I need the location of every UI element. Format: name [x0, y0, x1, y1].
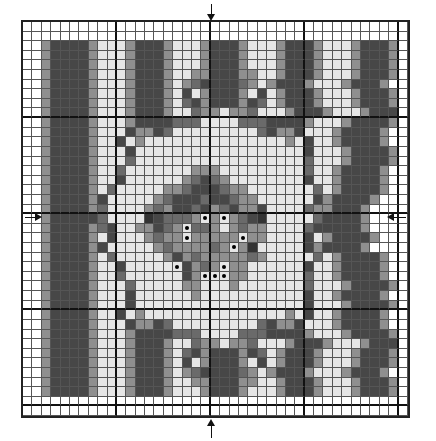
stitch-cell — [399, 195, 408, 205]
stitch-cell — [192, 397, 201, 407]
stitch-cell — [286, 176, 295, 186]
stitch-cell — [389, 51, 398, 61]
stitch-cell — [89, 89, 98, 99]
stitch-cell — [108, 118, 117, 128]
stitch-cell — [145, 80, 154, 90]
stitch-cell — [230, 137, 239, 147]
stitch-cell — [89, 310, 98, 320]
stitch-cell — [79, 406, 88, 416]
stitch-cell — [380, 349, 389, 359]
stitch-cell — [361, 176, 370, 186]
stitch-cell — [295, 137, 304, 147]
stitch-cell — [389, 147, 398, 157]
stitch-cell — [201, 262, 210, 272]
stitch-cell — [183, 214, 192, 224]
stitch-cell — [201, 80, 210, 90]
stitch-cell — [277, 157, 286, 167]
stitch-cell — [32, 262, 41, 272]
stitch-cell — [42, 397, 51, 407]
stitch-cell — [239, 22, 248, 32]
stitch-cell — [305, 320, 314, 330]
stitch-cell — [98, 224, 107, 234]
stitch-cell — [295, 166, 304, 176]
stitch-cell — [258, 205, 267, 215]
stitch-cell — [248, 70, 257, 80]
stitch-cell — [70, 291, 79, 301]
stitch-cell — [333, 185, 342, 195]
stitch-cell — [342, 320, 351, 330]
stitch-cell — [342, 89, 351, 99]
stitch-cell — [154, 80, 163, 90]
stitch-cell — [98, 32, 107, 42]
stitch-cell — [277, 272, 286, 282]
stitch-cell — [220, 301, 229, 311]
stitch-cell — [211, 118, 220, 128]
stitch-cell — [220, 128, 229, 138]
stitch-cell — [126, 89, 135, 99]
stitch-cell — [108, 99, 117, 109]
stitch-cell — [380, 128, 389, 138]
stitch-cell — [399, 349, 408, 359]
stitch-cell — [239, 118, 248, 128]
stitch-cell — [295, 406, 304, 416]
stitch-cell — [51, 253, 60, 263]
stitch-cell — [333, 99, 342, 109]
stitch-cell — [342, 22, 351, 32]
stitch-cell — [136, 128, 145, 138]
stitch-cell — [239, 41, 248, 51]
stitch-cell — [42, 51, 51, 61]
stitch-cell — [295, 291, 304, 301]
stitch-cell — [61, 310, 70, 320]
stitch-cell — [51, 176, 60, 186]
stitch-cell — [23, 243, 32, 253]
stitch-cell — [305, 157, 314, 167]
stitch-cell — [314, 406, 323, 416]
stitch-cell — [89, 205, 98, 215]
stitch-cell — [32, 80, 41, 90]
stitch-cell — [61, 358, 70, 368]
stitch-cell — [51, 310, 60, 320]
stitch-cell — [183, 387, 192, 397]
stitch-cell — [61, 185, 70, 195]
stitch-cell — [173, 22, 182, 32]
stitch-cell — [361, 378, 370, 388]
stitch-cell — [211, 108, 220, 118]
stitch-cell — [305, 60, 314, 70]
stitch-cell — [32, 137, 41, 147]
stitch-cell — [314, 32, 323, 42]
stitch-cell — [361, 99, 370, 109]
stitch-cell — [220, 349, 229, 359]
stitch-cell — [32, 118, 41, 128]
stitch-cell — [370, 80, 379, 90]
stitch-cell — [399, 406, 408, 416]
stitch-cell — [42, 253, 51, 263]
stitch-cell — [399, 89, 408, 99]
stitch-cell — [361, 281, 370, 291]
stitch-cell — [277, 301, 286, 311]
stitch-cell — [51, 378, 60, 388]
stitch-cell — [117, 89, 126, 99]
stitch-cell — [192, 185, 201, 195]
stitch-cell — [333, 60, 342, 70]
stitch-cell — [192, 205, 201, 215]
stitch-cell — [79, 176, 88, 186]
stitch-cell — [258, 339, 267, 349]
stitch-cell — [126, 330, 135, 340]
stitch-cell — [70, 147, 79, 157]
stitch-cell — [248, 137, 257, 147]
stitch-cell — [164, 262, 173, 272]
stitch-cell — [42, 233, 51, 243]
stitch-cell — [173, 387, 182, 397]
stitch-cell — [323, 166, 332, 176]
stitch-cell — [286, 349, 295, 359]
stitch-cell — [51, 99, 60, 109]
stitch-cell — [230, 320, 239, 330]
stitch-cell — [248, 397, 257, 407]
stitch-cell — [23, 166, 32, 176]
stitch-cell — [277, 253, 286, 263]
stitch-cell — [239, 128, 248, 138]
stitch-cell — [220, 80, 229, 90]
stitch-cell — [32, 195, 41, 205]
stitch-cell — [201, 387, 210, 397]
stitch-cell — [370, 301, 379, 311]
